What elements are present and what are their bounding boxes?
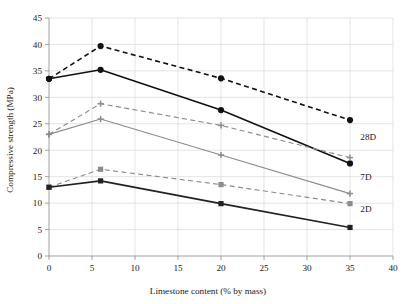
x-tick-label: 20 bbox=[216, 263, 226, 273]
chart-figure: 0510152025303540 051015202530354045 28D7… bbox=[0, 0, 410, 304]
x-axis-title: Limestone content (% by mass) bbox=[150, 286, 266, 296]
data-point-marker bbox=[347, 160, 353, 166]
series-label-7D: 7D bbox=[360, 172, 372, 182]
x-tick-label: 25 bbox=[259, 263, 269, 273]
data-point-marker bbox=[218, 107, 224, 113]
x-tick-label: 15 bbox=[173, 263, 183, 273]
x-tick-label: 30 bbox=[302, 263, 312, 273]
x-tick-label: 0 bbox=[47, 263, 52, 273]
data-point-marker bbox=[98, 178, 103, 183]
data-point-marker bbox=[46, 185, 51, 190]
chart-background bbox=[0, 0, 410, 304]
compressive-strength-line-chart: 0510152025303540 051015202530354045 28D7… bbox=[0, 0, 410, 304]
x-tick-label: 35 bbox=[345, 263, 355, 273]
data-point-marker bbox=[218, 75, 224, 81]
y-tick-label: 25 bbox=[33, 119, 43, 129]
x-tick-label: 10 bbox=[130, 263, 140, 273]
data-point-marker bbox=[98, 67, 104, 73]
series-label-28D: 28D bbox=[360, 132, 376, 142]
y-tick-label: 45 bbox=[33, 13, 43, 23]
y-tick-label: 0 bbox=[37, 251, 42, 261]
y-tick-label: 35 bbox=[33, 66, 43, 76]
x-tick-label: 40 bbox=[388, 263, 398, 273]
y-tick-label: 40 bbox=[33, 40, 43, 50]
series-label-2D: 2D bbox=[360, 204, 372, 214]
data-point-marker bbox=[98, 43, 104, 49]
data-point-marker bbox=[347, 117, 353, 123]
y-tick-label: 20 bbox=[33, 146, 43, 156]
y-tick-label: 30 bbox=[33, 93, 43, 103]
y-axis-title: Compressive strength (MPa) bbox=[5, 87, 15, 193]
data-point-marker bbox=[347, 225, 352, 230]
data-point-marker bbox=[347, 201, 352, 206]
data-point-marker bbox=[218, 201, 223, 206]
y-tick-label: 5 bbox=[37, 225, 42, 235]
y-tick-label: 15 bbox=[33, 172, 43, 182]
x-tick-label: 5 bbox=[90, 263, 95, 273]
data-point-marker bbox=[218, 182, 223, 187]
data-point-marker bbox=[98, 167, 103, 172]
y-tick-label: 10 bbox=[33, 198, 43, 208]
data-point-marker bbox=[46, 76, 52, 82]
